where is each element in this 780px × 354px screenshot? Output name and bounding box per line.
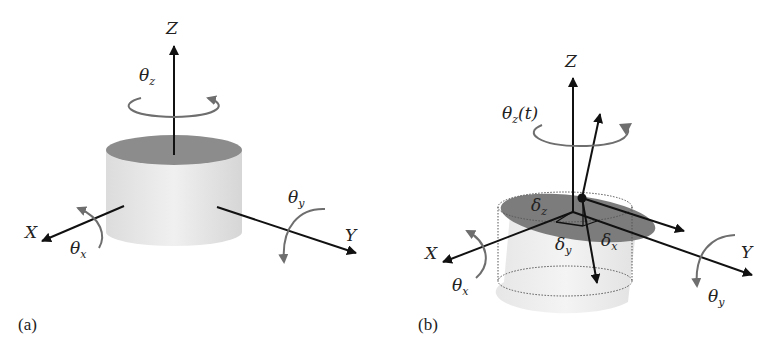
theta-x-rotation-arrow-a	[78, 208, 102, 248]
theta-y-label-b: θy	[708, 286, 725, 309]
panel-label-b: (b)	[418, 315, 438, 334]
displaced-origin-point-b	[578, 194, 587, 203]
z-axis-label-a: Z	[165, 18, 179, 38]
displaced-cylinder-b	[496, 185, 659, 313]
theta-y-label-a: θy	[288, 187, 305, 210]
x-axis-label-b: X	[423, 243, 438, 263]
theta-x-label-b: θx	[452, 275, 469, 298]
tilted-z-axis-b	[582, 114, 600, 198]
y-axis-label-b: Y	[741, 242, 754, 262]
theta-z-arrowhead-b	[619, 123, 632, 135]
theta-z-label-b: θz(t)	[502, 103, 538, 126]
theta-x-rotation-arrow-b	[467, 231, 486, 278]
theta-z-rotation-arrow-b	[534, 125, 628, 146]
y-axis-label-a: Y	[345, 225, 358, 245]
x-axis-label-a: X	[23, 222, 38, 242]
z-axis-label-b: Z	[564, 51, 578, 71]
panel-b: Z θz(t) X θx Y θy δz δy	[418, 51, 754, 334]
theta-y-rotation-arrow-b	[697, 235, 735, 286]
theta-x-label-a: θx	[70, 238, 87, 261]
figure-canvas: Z θz X θx Y θy (a)	[0, 0, 780, 354]
theta-z-label-a: θz	[139, 65, 155, 88]
panel-label-a: (a)	[18, 315, 37, 334]
panel-a: Z θz X θx Y θy (a)	[18, 18, 358, 334]
